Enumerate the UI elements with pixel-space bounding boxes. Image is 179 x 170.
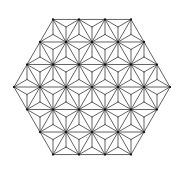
grid-vertex-dot (143, 41, 145, 43)
grid-vertex-dot (117, 131, 119, 133)
grid-vertex-dot (117, 86, 119, 88)
grid-vertex-dot (39, 41, 41, 43)
grid-vertex-dot (52, 63, 54, 65)
grid-vertex-dot (65, 41, 67, 43)
grid-vertex-dot (104, 63, 106, 65)
grid-vertex-dot (130, 63, 132, 65)
grid-vertex-dot (104, 153, 106, 155)
grid-vertex-dot (143, 131, 145, 133)
grid-vertex-dot (65, 86, 67, 88)
asanoha-pattern-canvas (0, 0, 179, 170)
grid-vertex-dot (39, 131, 41, 133)
grid-vertex-dot (65, 131, 67, 133)
grid-vertex-dot (104, 108, 106, 110)
grid-vertex-dot (130, 18, 132, 20)
grid-vertex-dot (130, 153, 132, 155)
grid-vertex-dot (169, 86, 171, 88)
grid-vertex-dot (143, 86, 145, 88)
grid-vertex-dot (78, 108, 80, 110)
grid-vertex-dot (78, 153, 80, 155)
grid-vertex-dot (156, 63, 158, 65)
grid-vertex-dot (52, 18, 54, 20)
grid-vertex-dot (52, 153, 54, 155)
grid-vertex-dot (91, 41, 93, 43)
asanoha-hexagon-diagram (0, 0, 179, 170)
grid-vertex-dot (39, 86, 41, 88)
grid-vertex-dot (91, 131, 93, 133)
grid-vertex-dot (156, 108, 158, 110)
grid-vertex-dot (91, 86, 93, 88)
grid-vertex-dot (26, 63, 28, 65)
grid-vertex-dot (117, 41, 119, 43)
grid-vertex-dot (130, 108, 132, 110)
grid-vertex-dot (78, 63, 80, 65)
grid-vertex-dot (104, 18, 106, 20)
grid-vertex-dot (78, 18, 80, 20)
grid-vertex-dot (26, 108, 28, 110)
grid-vertex-dot (52, 108, 54, 110)
grid-vertex-dot (13, 86, 15, 88)
